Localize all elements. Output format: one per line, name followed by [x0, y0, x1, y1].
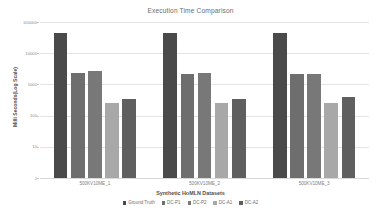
- bar: [54, 33, 68, 178]
- legend-item[interactable]: Ground Truth: [123, 200, 155, 206]
- bar: [122, 99, 136, 178]
- x-axis-group-label: 500KV10ME_2: [150, 181, 260, 186]
- gridline: [40, 22, 369, 23]
- chart-title: Execution Time Comparison: [0, 7, 381, 14]
- legend-swatch-icon: [188, 201, 191, 204]
- y-axis-tick-mark: [37, 116, 39, 117]
- legend-item[interactable]: DC-A1: [213, 200, 232, 206]
- y-axis-tick-mark: [37, 178, 39, 179]
- gridline: [40, 53, 369, 54]
- legend-item[interactable]: DC-A2: [239, 200, 258, 206]
- legend-swatch-icon: [123, 201, 126, 204]
- legend-label: DC-A2: [245, 200, 259, 206]
- bar: [273, 33, 287, 178]
- legend-label: Ground Truth: [128, 200, 155, 206]
- chart-legend: Ground TruthDC-P1DC-P2DC-A1DC-A2: [0, 200, 381, 206]
- x-axis-group-label: 500KV10ME_1: [40, 181, 150, 186]
- y-axis-tick-mark: [37, 22, 39, 23]
- y-axis-tick-mark: [37, 147, 39, 148]
- y-axis-tick-mark: [37, 53, 39, 54]
- plot-area: [40, 22, 369, 178]
- legend-label: DC-P2: [193, 200, 207, 206]
- bar: [88, 71, 102, 178]
- y-axis-tick-label: 1000: [28, 82, 37, 87]
- bar: [232, 99, 246, 178]
- x-axis-line: [40, 178, 369, 179]
- legend-label: DC-A1: [219, 200, 233, 206]
- bar: [307, 74, 321, 178]
- legend-item[interactable]: DC-P2: [188, 200, 207, 206]
- legend-swatch-icon: [213, 201, 216, 204]
- y-axis-tick-mark: [37, 84, 39, 85]
- bar: [163, 33, 177, 178]
- bar: [215, 103, 229, 178]
- bar: [324, 103, 338, 178]
- x-axis-group-label: 500KV10ME_3: [259, 181, 369, 186]
- bar: [342, 97, 356, 178]
- bar: [198, 73, 212, 178]
- y-axis-tick-label: 100: [30, 113, 37, 118]
- bar: [105, 103, 119, 178]
- legend-swatch-icon: [239, 201, 242, 204]
- y-axis-ticks: 110100100010000100000: [0, 0, 37, 220]
- x-axis-title: Synthetic HoMLN Datasets: [0, 190, 381, 196]
- execution-time-bar-chart: Execution Time Comparison Milli Seconds(…: [0, 0, 381, 220]
- bar: [71, 73, 85, 178]
- y-axis-tick-label: 10000: [25, 51, 37, 56]
- bar: [290, 74, 304, 178]
- bar: [181, 74, 195, 178]
- legend-swatch-icon: [162, 201, 165, 204]
- y-axis-tick-label: 100000: [23, 20, 37, 25]
- legend-item[interactable]: DC-P1: [162, 200, 181, 206]
- legend-label: DC-P1: [167, 200, 181, 206]
